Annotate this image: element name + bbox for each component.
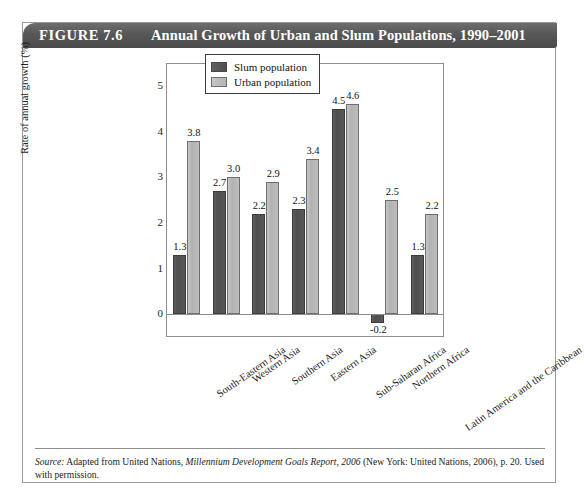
bar-slum: [292, 209, 305, 314]
bar-slum: [213, 191, 226, 314]
figure-header-band: FIGURE 7.6 Annual Growth of Urban and Sl…: [23, 23, 557, 48]
bar-urban: [346, 104, 359, 314]
bar-group: 4.54.6: [329, 63, 363, 337]
y-tick-0: 0: [141, 307, 163, 319]
bar-value-label: 3.8: [179, 127, 209, 138]
bar-slum: [332, 109, 345, 315]
bar-value-label: 2.9: [258, 168, 288, 179]
chart-legend: Slum population Urban population: [205, 54, 320, 94]
y-tick-5: 5: [141, 79, 163, 91]
bar-slum: [173, 255, 186, 314]
bar-value-label: 3.0: [219, 163, 249, 174]
legend-label-slum: Slum population: [234, 61, 307, 73]
bar-slum: [411, 255, 424, 314]
bar-group: 2.33.4: [289, 63, 323, 337]
y-tick-1: 1: [141, 262, 163, 274]
y-tick-2: 2: [141, 216, 163, 228]
figure-title: Annual Growth of Urban and Slum Populati…: [151, 27, 526, 44]
bar-value-label: 2.2: [417, 200, 447, 211]
urban-swatch-icon: [211, 77, 227, 87]
legend-item-urban: Urban population: [211, 74, 311, 89]
source-note: Source: Adapted from United Nations, Mil…: [23, 448, 557, 484]
slum-swatch-icon: [211, 62, 227, 72]
y-axis-tick-labels: 543210: [133, 63, 163, 337]
y-tick-3: 3: [141, 170, 163, 182]
bar-group: 1.33.8: [170, 63, 204, 337]
x-axis-category-labels: South-Eastern AsiaWestern AsiaSouthern A…: [166, 340, 466, 450]
bar-group: 2.22.9: [249, 63, 283, 337]
x-label-0: South-Eastern Asia: [214, 344, 286, 399]
bar-value-label: 4.6: [338, 90, 368, 101]
bar-value-label: 2.5: [377, 186, 407, 197]
bar-urban: [187, 141, 200, 315]
plot-inner: 1.33.82.73.02.22.92.33.44.54.6-0.22.51.3…: [166, 63, 444, 337]
source-line1-c: (New York: United Nations, 2006), p. 20.: [361, 456, 523, 467]
zero-baseline: [166, 314, 444, 315]
legend-item-slum: Slum population: [211, 59, 311, 74]
figure-number: FIGURE 7.6: [39, 27, 123, 44]
bar-group: 2.73.0: [210, 63, 244, 337]
bar-group: 1.32.2: [408, 63, 442, 337]
bar-urban: [385, 200, 398, 314]
figure-card: FIGURE 7.6 Annual Growth of Urban and Sl…: [22, 22, 556, 483]
bar-value-label: -0.2: [363, 324, 393, 335]
y-axis-title: Rate of annual growth (%): [19, 0, 30, 198]
bar-slum: [371, 314, 384, 323]
bar-slum: [252, 214, 265, 314]
source-line1-a: Adapted from United Nations,: [64, 456, 185, 467]
legend-label-urban: Urban population: [234, 76, 311, 88]
bar-urban: [227, 177, 240, 314]
y-tick-4: 4: [141, 125, 163, 137]
bar-urban: [266, 182, 279, 314]
source-publication: Millennium Development Goals Report, 200…: [185, 456, 360, 467]
source-text: Source: Adapted from United Nations, Mil…: [35, 455, 547, 481]
bar-urban: [425, 214, 438, 314]
bar-urban: [306, 159, 319, 314]
source-divider: [35, 448, 545, 449]
x-label-6: Latin America and the Caribbean: [463, 344, 583, 433]
bar-value-label: 3.4: [298, 145, 328, 156]
bar-group: -0.22.5: [368, 63, 402, 337]
source-label: Source:: [35, 456, 64, 467]
chart-area: Rate of annual growth (%) 543210 1.33.82…: [23, 48, 557, 448]
